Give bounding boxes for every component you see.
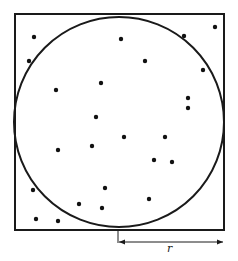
sample-point [34,217,38,221]
sample-point [54,88,58,92]
sample-point [201,68,205,72]
random-points [27,25,217,223]
sample-point [170,160,174,164]
sample-point [77,202,81,206]
sample-point [147,197,151,201]
sample-point [186,96,190,100]
sample-point [213,25,217,29]
sample-point [56,219,60,223]
sample-point [94,115,98,119]
sample-point [99,81,103,85]
sample-point [186,106,190,110]
sample-point [32,35,36,39]
sample-point [163,135,167,139]
sample-point [103,186,107,190]
sample-point [31,188,35,192]
sample-point [119,37,123,41]
arrowhead-right-icon [217,240,223,245]
sample-point [27,59,31,63]
monte-carlo-diagram [0,0,238,261]
radius-label: r [167,242,172,255]
sample-point [143,59,147,63]
sample-point [182,34,186,38]
arrowhead-left-icon [119,240,125,245]
sample-point [90,144,94,148]
sample-point [152,158,156,162]
inscribed-circle [14,17,224,227]
sample-point [56,148,60,152]
sample-point [100,206,104,210]
sample-point [122,135,126,139]
